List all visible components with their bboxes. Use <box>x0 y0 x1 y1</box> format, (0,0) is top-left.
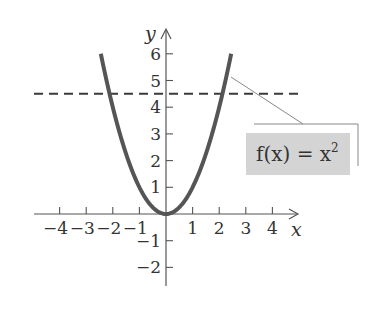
y-tick-label: 4 <box>150 97 161 117</box>
x-tick-label: 1 <box>187 218 198 238</box>
x-tick-label: −2 <box>96 218 121 238</box>
chart-root: −4−3−2−11234−2−1123456 f(x) = x2 x y <box>0 0 387 309</box>
function-label-base: f(x) = x <box>256 142 332 166</box>
x-axis-label: x <box>291 218 302 240</box>
parabola-chart: −4−3−2−11234−2−1123456 f(x) = x2 x y <box>0 0 387 309</box>
y-tick-label: 3 <box>150 124 161 144</box>
x-tick-label: −3 <box>70 218 95 238</box>
x-tick-label: −4 <box>43 218 68 238</box>
x-tick-label: 4 <box>267 218 278 238</box>
leader-line <box>231 77 303 124</box>
y-tick-label: 2 <box>150 151 161 171</box>
tick-labels: −4−3−2−11234−2−1123456 <box>43 44 278 278</box>
y-tick-label: −1 <box>136 231 161 251</box>
function-label-annotation: f(x) = x2 <box>231 77 358 175</box>
y-tick-label: −2 <box>136 257 161 277</box>
x-tick-label: 3 <box>240 218 251 238</box>
y-tick-label: 5 <box>150 71 161 91</box>
y-tick-label: 6 <box>150 44 161 64</box>
function-label: f(x) = x2 <box>256 141 339 166</box>
y-tick-label: 1 <box>150 177 161 197</box>
function-label-exponent: 2 <box>331 141 339 155</box>
x-tick-label: 2 <box>214 218 225 238</box>
y-axis-label: y <box>144 22 156 44</box>
